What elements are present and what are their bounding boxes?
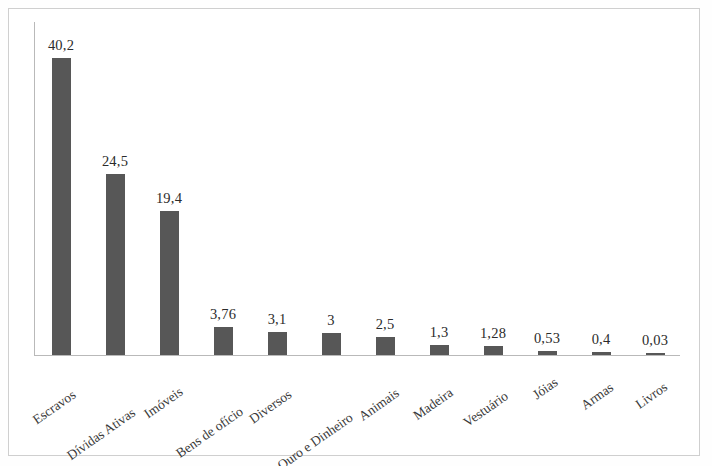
bar-group: 3 xyxy=(304,22,358,355)
bar[interactable] xyxy=(484,346,503,355)
bar-group: 0,03 xyxy=(628,22,682,355)
bar-value-label: 3,76 xyxy=(196,306,250,323)
bar-group: 3,1 xyxy=(250,22,304,355)
bar-group: 19,4 xyxy=(142,22,196,355)
bar[interactable] xyxy=(376,337,395,356)
x-axis-line xyxy=(34,355,680,356)
bar-value-label: 1,3 xyxy=(412,324,466,341)
bar-group: 3,76 xyxy=(196,22,250,355)
bar-value-label: 3,1 xyxy=(250,311,304,328)
x-axis-tick-labels: EscravosDívidas AtivasImóveisBens de ofí… xyxy=(34,357,680,462)
bar[interactable] xyxy=(160,211,179,355)
bar-value-label: 0,4 xyxy=(574,331,628,348)
bar-value-label: 24,5 xyxy=(88,153,142,170)
bar-value-label: 40,2 xyxy=(34,37,88,54)
bar[interactable] xyxy=(52,58,71,355)
bar-group: 0,53 xyxy=(520,22,574,355)
x-axis-tick-label: Escravos xyxy=(70,359,119,400)
bar[interactable] xyxy=(538,351,557,355)
bar-group: 24,5 xyxy=(88,22,142,355)
bar-value-label: 1,28 xyxy=(466,325,520,342)
bar[interactable] xyxy=(430,345,449,355)
bar[interactable] xyxy=(646,353,665,355)
bar-value-label: 2,5 xyxy=(358,316,412,333)
x-axis-tick-label: Armas xyxy=(608,359,647,393)
bar-value-label: 0,03 xyxy=(628,332,682,349)
bar-value-label: 3 xyxy=(304,312,358,329)
x-axis-tick-label: Jóias xyxy=(552,359,583,388)
bar-group: 1,3 xyxy=(412,22,466,355)
bar-group: 1,28 xyxy=(466,22,520,355)
x-axis-tick-label: Madeira xyxy=(447,359,493,398)
bar[interactable] xyxy=(106,174,125,355)
chart-screenshot: 40,224,519,43,763,132,51,31,280,530,40,0… xyxy=(0,0,712,466)
bar[interactable] xyxy=(268,332,287,355)
bar[interactable] xyxy=(214,327,233,355)
bar-value-label: 0,53 xyxy=(520,330,574,347)
bar-value-label: 19,4 xyxy=(142,190,196,207)
bar[interactable] xyxy=(592,352,611,355)
bar-group: 40,2 xyxy=(34,22,88,355)
bar[interactable] xyxy=(322,333,341,355)
bar-group: 2,5 xyxy=(358,22,412,355)
bar-group: 0,4 xyxy=(574,22,628,355)
